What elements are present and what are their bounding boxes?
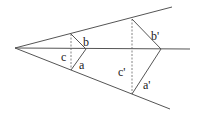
label-c-prime: c' bbox=[118, 65, 126, 79]
middle-ray bbox=[15, 48, 190, 49]
label-b: b bbox=[83, 35, 89, 49]
similar-triangles-diagram: b c a b' c' a' bbox=[0, 0, 197, 115]
label-a-prime: a' bbox=[143, 78, 151, 92]
diagram-canvas: b c a b' c' a' bbox=[0, 0, 197, 115]
label-c: c bbox=[61, 50, 66, 64]
label-b-prime: b' bbox=[151, 29, 159, 43]
upper-ray bbox=[15, 7, 172, 48]
label-a: a bbox=[79, 58, 85, 72]
